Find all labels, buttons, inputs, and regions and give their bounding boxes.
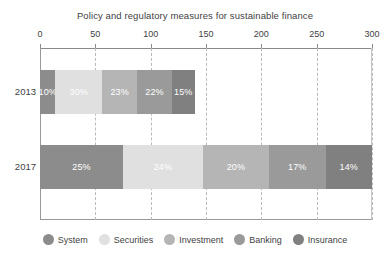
segment-value-label: 25% (72, 162, 90, 172)
legend: SystemSecuritiesInvestmentBankingInsuran… (0, 234, 390, 245)
bar-segment-2017-investment[interactable]: 20% (203, 145, 269, 189)
bar-segment-2013-investment[interactable]: 23% (102, 70, 137, 114)
bar-segment-2013-system[interactable]: 10% (40, 70, 55, 114)
tick-mark-200 (261, 44, 262, 48)
legend-label: Banking (249, 235, 282, 245)
segment-value-label: 23% (110, 87, 128, 97)
tick-mark-50 (95, 44, 96, 48)
tick-mark-150 (206, 44, 207, 48)
chart-title: Policy and regulatory measures for susta… (0, 10, 390, 21)
x-tick-label-100: 100 (143, 29, 158, 39)
segment-value-label: 22% (145, 87, 163, 97)
legend-item-banking[interactable]: Banking (234, 234, 282, 245)
bar-row-2013[interactable]: 10%30%23%22%15% (40, 70, 195, 114)
gridline-200 (261, 48, 262, 220)
legend-swatch-icon (234, 234, 245, 245)
plot-area: 050100150200250300 10%30%23%22%15%25%24%… (40, 48, 372, 220)
bar-segment-2013-securities[interactable]: 30% (55, 70, 101, 114)
legend-label: Securities (114, 235, 154, 245)
x-tick-label-250: 250 (309, 29, 324, 39)
segment-value-label: 15% (174, 87, 192, 97)
tick-mark-250 (317, 44, 318, 48)
legend-item-securities[interactable]: Securities (99, 234, 154, 245)
x-tick-label-300: 300 (364, 29, 379, 39)
stacked-bar-chart: Policy and regulatory measures for susta… (0, 0, 390, 270)
tick-mark-100 (151, 44, 152, 48)
legend-label: Investment (179, 235, 223, 245)
bar-segment-2017-insurance[interactable]: 14% (326, 145, 372, 189)
category-label-2013: 2013 (4, 86, 36, 97)
legend-label: Insurance (308, 235, 348, 245)
segment-value-label: 20% (227, 162, 245, 172)
segment-value-label: 17% (288, 162, 306, 172)
gridline-300 (372, 48, 373, 220)
legend-item-system[interactable]: System (43, 234, 88, 245)
tick-mark-300 (372, 44, 373, 48)
legend-swatch-icon (99, 234, 110, 245)
legend-swatch-icon (164, 234, 175, 245)
bar-segment-2013-banking[interactable]: 22% (137, 70, 171, 114)
segment-value-label: 30% (70, 87, 88, 97)
x-tick-label-150: 150 (198, 29, 213, 39)
bar-segment-2017-banking[interactable]: 17% (269, 145, 325, 189)
gridline-250 (317, 48, 318, 220)
gridline-150 (206, 48, 207, 220)
x-tick-label-0: 0 (37, 29, 42, 39)
segment-value-label: 14% (340, 162, 358, 172)
x-tick-label-200: 200 (254, 29, 269, 39)
legend-item-insurance[interactable]: Insurance (293, 234, 348, 245)
bar-row-2017[interactable]: 25%24%20%17%14% (40, 145, 372, 189)
legend-swatch-icon (293, 234, 304, 245)
bar-segment-2017-securities[interactable]: 24% (123, 145, 203, 189)
segment-value-label: 24% (154, 162, 172, 172)
legend-item-investment[interactable]: Investment (164, 234, 223, 245)
legend-swatch-icon (43, 234, 54, 245)
segment-value-label: 10% (40, 87, 55, 97)
bar-segment-2017-system[interactable]: 25% (40, 145, 123, 189)
x-tick-label-50: 50 (90, 29, 100, 39)
tick-mark-0 (40, 44, 41, 48)
category-label-2017: 2017 (4, 161, 36, 172)
legend-label: System (58, 235, 88, 245)
bar-segment-2013-insurance[interactable]: 15% (172, 70, 195, 114)
